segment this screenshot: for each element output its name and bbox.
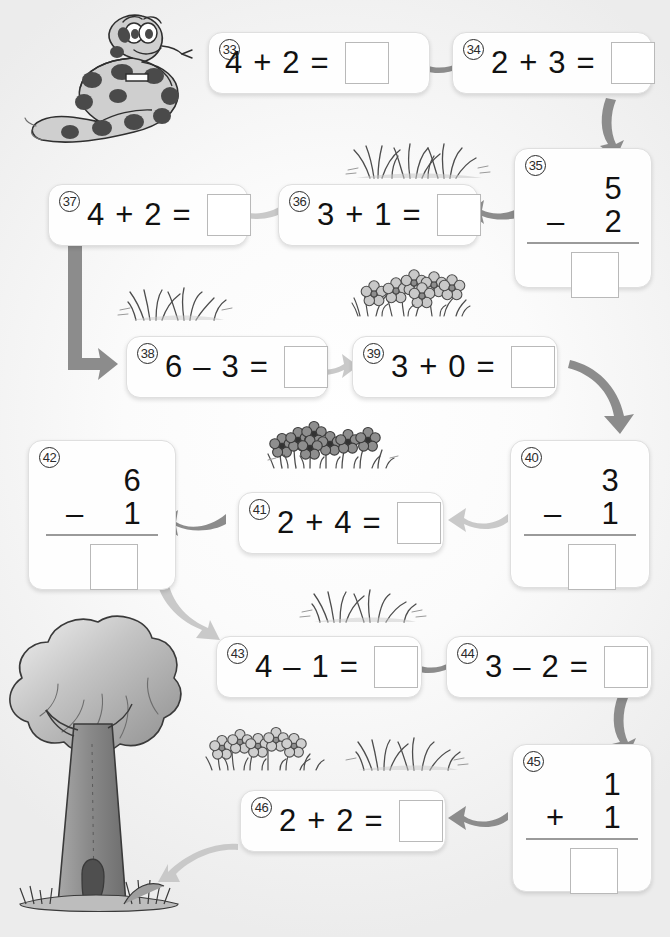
equals-sign-34: = [577, 45, 597, 81]
problem-card-43[interactable]: 43 4 – 1 = [216, 636, 422, 698]
answer-box-37[interactable] [207, 194, 251, 236]
vertical-equation-42: 6 – 1 [29, 465, 175, 590]
equals-sign-39: = [477, 349, 497, 385]
grass-cluster-mid-left [118, 284, 238, 322]
vertical-equation-35: 5 – 2 [515, 173, 651, 298]
equals-sign-36: = [403, 197, 423, 233]
answer-box-41[interactable] [397, 502, 441, 544]
operand-left-39: 3 [391, 349, 410, 385]
grass-cluster-bottom-right [346, 734, 472, 772]
operand-right-37: 2 [144, 197, 163, 233]
answer-box-46[interactable] [399, 800, 443, 842]
arrow-46-to-tree [150, 844, 240, 888]
equation-rule-45 [526, 838, 638, 840]
equation-39: 3 + 0 = [391, 346, 555, 388]
operand-right-36: 1 [374, 197, 393, 233]
arrow-45-to-46 [448, 804, 510, 836]
operator-36: + [345, 197, 365, 233]
operator-37: + [115, 197, 135, 233]
problem-card-40[interactable]: 40 3 – 1 [510, 440, 650, 588]
answer-box-34[interactable] [611, 42, 655, 84]
operator-43: – [283, 649, 302, 685]
equation-37: 4 + 2 = [87, 194, 251, 236]
answer-box-33[interactable] [345, 42, 389, 84]
problem-number-43: 43 [227, 643, 248, 664]
operand-right-33: 2 [282, 45, 301, 81]
answer-box-45[interactable] [570, 848, 618, 894]
operand-left-41: 2 [277, 505, 296, 541]
operator-39: + [419, 349, 439, 385]
problem-card-42[interactable]: 42 6 – 1 [28, 440, 176, 590]
problem-card-36[interactable]: 36 3 + 1 = [278, 184, 478, 246]
equation-rule-40 [524, 534, 636, 536]
answer-box-38[interactable] [284, 346, 328, 388]
equation-33: 4 + 2 = [225, 42, 389, 84]
minuend-row-42: 6 [46, 465, 158, 498]
problem-number-38: 38 [137, 343, 158, 364]
subtrahend-row-42: – 1 [46, 498, 158, 531]
operand-right-41: 4 [334, 505, 353, 541]
grass-cluster-lower [300, 586, 430, 624]
equation-36: 3 + 1 = [317, 194, 481, 236]
problem-card-38[interactable]: 38 6 – 3 = [126, 336, 328, 398]
problem-card-45[interactable]: 45 1 + 1 [512, 744, 652, 892]
grass-cluster-top [342, 140, 492, 180]
answer-box-35[interactable] [571, 252, 619, 298]
problem-card-37[interactable]: 37 4 + 2 = [48, 184, 248, 246]
problem-card-46[interactable]: 46 2 + 2 = [240, 790, 446, 852]
equals-sign-43: = [340, 649, 360, 685]
operator-35: – [543, 206, 587, 239]
answer-box-39[interactable] [511, 346, 555, 388]
subtrahend-row-35: – 2 [527, 206, 639, 239]
problem-number-33: 33 [219, 39, 240, 60]
operand-right-44: 2 [542, 649, 561, 685]
operator-38: – [193, 349, 212, 385]
operator-33: + [253, 45, 273, 81]
problem-number-41: 41 [249, 499, 270, 520]
problem-card-34[interactable]: 34 2 + 3 = [452, 32, 652, 94]
operand-bottom-40: 1 [584, 498, 636, 531]
minuend-row-40: 3 [524, 465, 636, 498]
problem-number-46: 46 [251, 797, 272, 818]
operand-bottom-42: 1 [106, 498, 158, 531]
problem-card-39[interactable]: 39 3 + 0 = [352, 336, 558, 398]
answer-box-43[interactable] [374, 646, 418, 688]
operand-left-38: 6 [165, 349, 184, 385]
problem-number-36: 36 [289, 191, 310, 212]
operator-46: + [307, 803, 327, 839]
operand-right-39: 0 [448, 349, 467, 385]
addend-row-45: 1 [526, 769, 638, 802]
arrow-39-to-40 [566, 364, 638, 436]
arrow-37-to-38 [60, 240, 124, 382]
operand-right-46: 2 [336, 803, 355, 839]
operand-left-46: 2 [279, 803, 298, 839]
equals-sign-44: = [570, 649, 590, 685]
equation-44: 3 – 2 = [485, 646, 648, 688]
equals-sign-46: = [365, 803, 385, 839]
operand-left-36: 3 [317, 197, 336, 233]
answer-box-36[interactable] [437, 194, 481, 236]
problem-card-41[interactable]: 41 2 + 4 = [238, 492, 444, 554]
equation-34: 2 + 3 = [491, 42, 655, 84]
operand-top-42: 6 [106, 465, 158, 498]
answer-box-42[interactable] [90, 544, 138, 590]
worksheet-page: 33 4 + 2 = 34 2 + 3 = 35 5 – 2 [0, 0, 670, 937]
equation-38: 6 – 3 = [165, 346, 328, 388]
problem-card-44[interactable]: 44 3 – 2 = [446, 636, 652, 698]
problem-number-37: 37 [59, 191, 80, 212]
problem-card-35[interactable]: 35 5 – 2 [514, 148, 652, 288]
problem-card-33[interactable]: 33 4 + 2 = [208, 32, 430, 94]
snake-illustration [22, 8, 200, 158]
operand-left-37: 4 [87, 197, 106, 233]
answer-box-40[interactable] [568, 544, 616, 590]
vertical-equation-40: 3 – 1 [511, 465, 649, 590]
equals-sign-37: = [173, 197, 193, 233]
flower-cluster-bottom [206, 728, 326, 772]
equation-rule-42 [46, 534, 158, 536]
addend2-row-45: + 1 [526, 802, 638, 835]
operator-41: + [305, 505, 325, 541]
operand-bottom-45: 1 [586, 802, 638, 835]
problem-number-34: 34 [463, 39, 484, 60]
operand-top-35: 5 [587, 173, 639, 206]
answer-box-44[interactable] [604, 646, 648, 688]
